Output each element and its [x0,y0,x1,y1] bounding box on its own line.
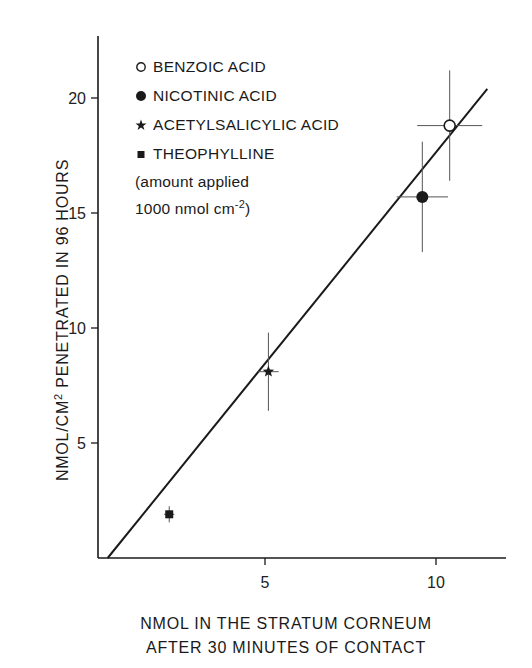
star-icon [135,119,153,131]
note-text: 1000 nmol cm [135,200,235,217]
y-label-text: NMOL/CM [54,400,71,481]
data-point-nicotinic-acid [397,142,448,252]
legend-item-nicotinic-acid: NICOTINIC ACID [135,81,339,110]
x-axis-label: NMOL IN THE STRATUM CORNEUM AFTER 30 MIN… [0,612,532,660]
y-axis-label: NMOL/CM2 PENETRATED IN 96 HOURS [52,159,72,481]
note-superscript: -2 [235,198,245,210]
note-close-paren: ) [245,200,250,217]
note-line-1: (amount applied [135,170,339,193]
legend-item-theophylline: THEOPHYLLINE [135,139,339,168]
data-point-theophylline [164,506,174,522]
amount-applied-note: (amount applied 1000 nmol cm-2) [135,170,339,220]
y-tick-label: 5 [77,435,86,452]
legend-label: ACETYLSALICYLIC ACID [153,110,339,139]
note-line-2: 1000 nmol cm-2) [135,193,339,220]
filled-circle-icon [135,90,153,102]
data-point-acetylsalicylic-acid [258,333,279,411]
x-tick-label: 10 [427,574,445,591]
legend-label: NICOTINIC ACID [153,81,277,110]
legend-label: BENZOIC ACID [153,52,266,81]
y-tick-label: 20 [68,90,86,107]
open-circle-icon [135,61,153,73]
legend-item-benzoic-acid: BENZOIC ACID [135,52,339,81]
legend: BENZOIC ACID NICOTINIC ACID ACETYLSALICY… [135,52,339,220]
y-label-rest: PENETRATED IN 96 HOURS [54,159,71,393]
x-label-line-1: NMOL IN THE STRATUM CORNEUM [40,612,532,636]
legend-item-acetylsalicylic-acid: ACETYLSALICYLIC ACID [135,110,339,139]
legend-label: THEOPHYLLINE [153,139,275,168]
x-label-line-2: AFTER 30 MINUTES OF CONTACT [40,636,532,660]
y-label-superscript: 2 [52,393,64,400]
filled-square-icon [135,148,153,160]
filled-square-icon [165,510,173,518]
x-tick-label: 5 [261,574,270,591]
open-circle-icon [444,120,455,131]
filled-circle-icon [416,191,428,203]
